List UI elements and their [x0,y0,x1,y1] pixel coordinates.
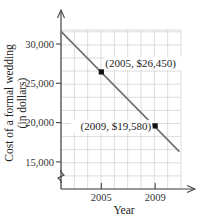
trend-line [61,31,179,151]
axis-break-icon [58,170,64,183]
y-axis-title-line-2: (in dollars) [16,77,29,128]
y-tick-label: 15,000 [25,157,54,168]
x-axis-title: Year [113,204,134,216]
x-tick-label: 2005 [91,192,112,203]
data-point-label: (2009, $19,580) [81,120,152,133]
y-axis-title: Cost of a formal wedding (in dollars) [3,44,29,162]
x-tick-label: 2009 [145,192,166,203]
line-chart: 15,00020,00025,00030,000 20052009 (2005,… [0,0,206,220]
data-series [61,31,179,151]
y-ticks: 15,00020,00025,00030,000 [25,39,61,168]
y-tick-label: 25,000 [25,78,54,89]
y-axis-title-line-1: Cost of a formal wedding [3,44,16,162]
data-point [153,123,158,128]
grid [61,30,181,189]
axes [58,10,196,193]
data-point [99,69,104,74]
y-tick-label: 20,000 [25,117,54,128]
y-tick-label: 30,000 [25,39,54,50]
data-point-label: (2005, $26,450) [105,57,176,70]
